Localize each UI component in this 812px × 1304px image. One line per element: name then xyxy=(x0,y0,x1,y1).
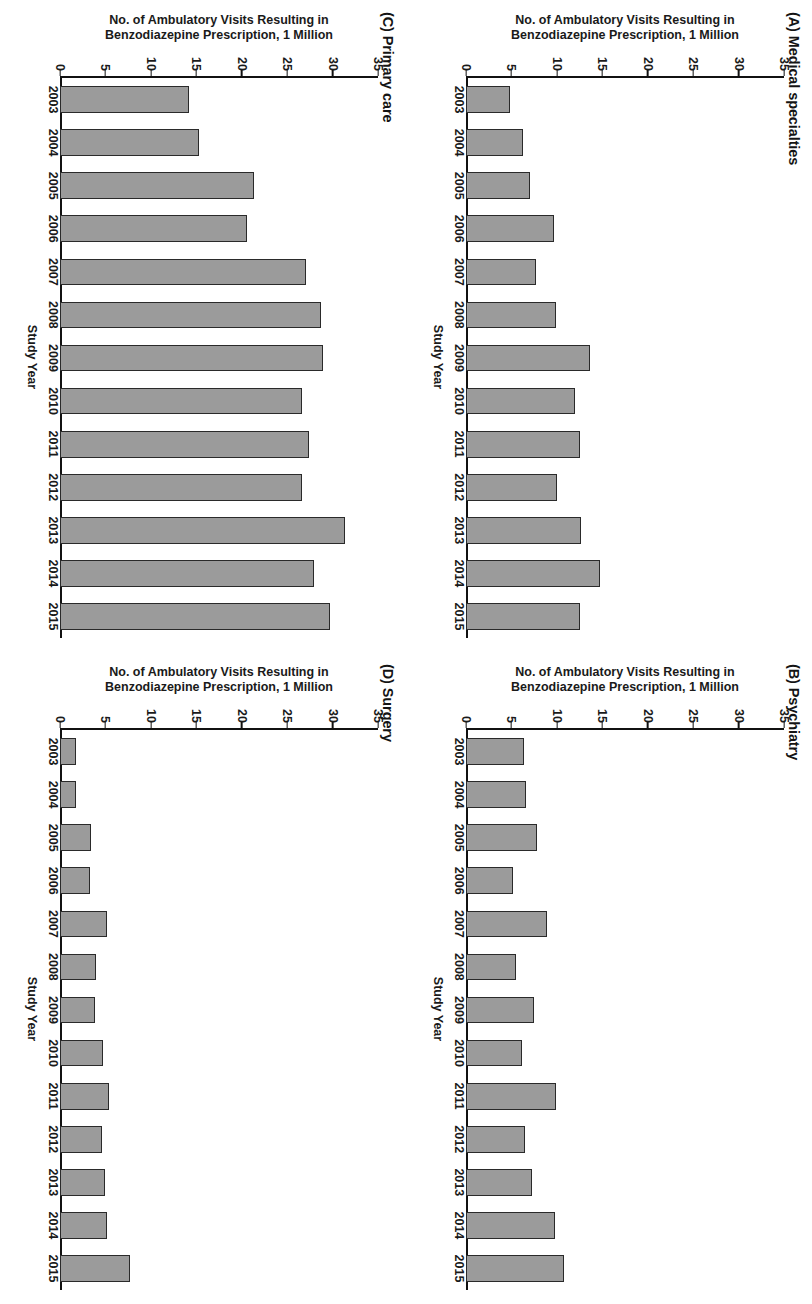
bar-2013 xyxy=(60,517,345,544)
panel-c-title: (C) Primary care xyxy=(380,12,396,638)
bar-slot xyxy=(60,164,378,207)
bar-slot xyxy=(466,1075,784,1118)
bar-slot xyxy=(466,1204,784,1247)
bar-2014 xyxy=(466,560,600,587)
bar-2007 xyxy=(466,911,547,938)
bar-slot xyxy=(60,466,378,509)
panel-a-x-ticks: 2003200420052006200720082009201020112012… xyxy=(446,76,466,638)
x-tick-label: 2012 xyxy=(40,1118,60,1161)
panel-a-x-axis-label: Study Year xyxy=(431,76,445,638)
x-tick-label: 2008 xyxy=(40,945,60,988)
bar-slot xyxy=(60,250,378,293)
panel-a-bars xyxy=(466,78,784,638)
bar-2010 xyxy=(466,1040,522,1067)
y-axis-label-line-2: Benzodiazepine Prescription, 1 Million xyxy=(511,28,739,43)
x-tick-label: 2004 xyxy=(446,121,466,164)
bar-2003 xyxy=(60,86,189,113)
bar-2012 xyxy=(60,1126,102,1153)
bar-slot xyxy=(60,595,378,638)
bar-2013 xyxy=(60,1169,105,1196)
x-tick-label: 2014 xyxy=(446,1204,466,1247)
x-tick-label: 2013 xyxy=(446,1161,466,1204)
x-tick-label: 2003 xyxy=(40,78,60,121)
bar-slot xyxy=(466,1247,784,1290)
bar-2011 xyxy=(466,1083,556,1110)
x-tick-label: 2006 xyxy=(446,859,466,902)
x-tick-label: 2008 xyxy=(40,293,60,336)
panel-b-x-axis-label: Study Year xyxy=(431,728,445,1290)
x-tick-label: 2009 xyxy=(40,336,60,379)
bar-2004 xyxy=(60,781,76,808)
x-tick-label: 2013 xyxy=(446,509,466,552)
bar-2010 xyxy=(466,388,575,415)
figure-grid: (A) Medical specialties No. of Ambulator… xyxy=(0,0,812,1304)
bar-slot xyxy=(60,78,378,121)
bar-slot xyxy=(466,1161,784,1204)
x-tick-label: 2003 xyxy=(446,78,466,121)
bar-2013 xyxy=(466,1169,532,1196)
x-tick-label: 2012 xyxy=(446,1118,466,1161)
bar-2003 xyxy=(466,86,510,113)
x-tick-label: 2011 xyxy=(446,423,466,466)
bar-slot xyxy=(60,945,378,988)
y-axis-label-line-1: No. of Ambulatory Visits Resulting in xyxy=(105,665,333,680)
panel-a-plot-area: No. of Ambulatory Visits Resulting in Be… xyxy=(466,10,784,638)
bar-slot xyxy=(60,1247,378,1290)
bar-2003 xyxy=(60,738,76,765)
x-tick-label: 2005 xyxy=(40,164,60,207)
bar-2005 xyxy=(466,824,537,851)
x-tick-label: 2003 xyxy=(40,730,60,773)
bar-2015 xyxy=(60,1255,130,1282)
bar-slot xyxy=(466,380,784,423)
panel-b-y-axis-label: No. of Ambulatory Visits Resulting in Be… xyxy=(466,662,784,698)
bar-2004 xyxy=(466,129,523,156)
bar-slot xyxy=(60,988,378,1031)
panel-b-title: (B) Psychiatry xyxy=(786,664,802,1290)
bar-slot xyxy=(60,1161,378,1204)
bar-slot xyxy=(60,902,378,945)
bar-slot xyxy=(60,1118,378,1161)
x-tick-label: 2013 xyxy=(40,509,60,552)
bar-slot xyxy=(60,380,378,423)
bar-slot xyxy=(466,293,784,336)
bar-slot xyxy=(466,1118,784,1161)
x-tick-label: 2014 xyxy=(40,1204,60,1247)
bar-2014 xyxy=(60,1212,107,1239)
x-tick-label: 2005 xyxy=(446,164,466,207)
x-tick-label: 2006 xyxy=(40,207,60,250)
panel-d-plot-area: No. of Ambulatory Visits Resulting in Be… xyxy=(60,662,378,1290)
bar-2008 xyxy=(60,302,321,329)
bar-slot xyxy=(466,859,784,902)
x-tick-label: 2004 xyxy=(446,773,466,816)
x-tick-label: 2010 xyxy=(40,380,60,423)
bar-2009 xyxy=(466,997,534,1024)
bar-slot xyxy=(60,509,378,552)
y-axis-label-line-1: No. of Ambulatory Visits Resulting in xyxy=(511,665,739,680)
x-tick-label: 2013 xyxy=(40,1161,60,1204)
y-axis-label-line-1: No. of Ambulatory Visits Resulting in xyxy=(511,13,739,28)
bar-2004 xyxy=(466,781,526,808)
x-tick-label: 2011 xyxy=(446,1075,466,1118)
panel-d-x-axis-label: Study Year xyxy=(25,728,39,1290)
x-tick-label: 2015 xyxy=(40,1247,60,1290)
x-tick-label: 2012 xyxy=(446,466,466,509)
bar-slot xyxy=(60,1032,378,1075)
x-tick-label: 2014 xyxy=(446,552,466,595)
x-tick-label: 2007 xyxy=(40,250,60,293)
x-tick-label: 2009 xyxy=(40,988,60,1031)
bar-2008 xyxy=(466,302,556,329)
bar-2010 xyxy=(60,1040,103,1067)
bar-2003 xyxy=(466,738,524,765)
x-tick-label: 2009 xyxy=(446,336,466,379)
bar-2011 xyxy=(60,1083,109,1110)
bar-2006 xyxy=(466,215,554,242)
panel-d-title: (D) Surgery xyxy=(380,664,396,1290)
bar-slot xyxy=(60,730,378,773)
panel-a-canvas xyxy=(466,76,784,638)
bar-2007 xyxy=(466,259,536,286)
panel-d-bars xyxy=(60,730,378,1290)
bar-slot xyxy=(466,988,784,1031)
bar-slot xyxy=(60,1075,378,1118)
bar-slot xyxy=(466,336,784,379)
panel-b-y-ticks: 35302520151050 xyxy=(466,698,784,728)
